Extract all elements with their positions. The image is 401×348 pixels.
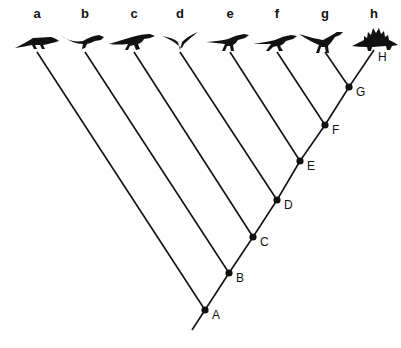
- node-label: D: [284, 198, 293, 212]
- small-dinosaur-icon: [206, 34, 249, 51]
- terminal-label: H: [378, 50, 387, 64]
- tip-label: h: [370, 6, 378, 21]
- node-label: A: [212, 308, 220, 322]
- tip-label: b: [81, 6, 89, 21]
- long-tailed-reptile-icon: [60, 35, 104, 49]
- branch-to-d: [180, 52, 277, 200]
- node-label: B: [236, 271, 244, 285]
- branch-to-f: [277, 52, 325, 125]
- theropod-icon: [253, 35, 297, 51]
- spine-segment: [229, 237, 253, 273]
- animal-silhouettes: [15, 28, 398, 53]
- node-label: G: [356, 85, 365, 99]
- archosaur-running-icon: [109, 34, 155, 50]
- tip-label: f: [275, 6, 279, 21]
- cladogram: [0, 0, 401, 348]
- node-dot: [225, 269, 232, 276]
- stegosaur-icon: [352, 28, 398, 51]
- branch-to-g: [325, 52, 349, 87]
- pterosaur-icon: [162, 32, 198, 50]
- branch-to-c: [134, 52, 253, 237]
- node-dot: [345, 83, 352, 90]
- node-dot: [273, 196, 280, 203]
- tip-label: g: [321, 6, 329, 21]
- spine-segment: [253, 200, 277, 237]
- branch-to-b: [85, 52, 229, 273]
- node-label: C: [260, 235, 269, 249]
- node-dot: [321, 121, 328, 128]
- bipedal-dinosaur-icon: [299, 32, 343, 53]
- node-dot: [296, 157, 303, 164]
- tip-label: d: [176, 6, 184, 21]
- spine-segment: [325, 87, 349, 125]
- tip-label: e: [226, 6, 233, 21]
- tip-label: a: [33, 6, 40, 21]
- branch-lines: [37, 50, 374, 330]
- spine-segment: [300, 125, 325, 161]
- node-dot: [249, 233, 256, 240]
- spine-segment: [205, 273, 229, 310]
- tip-label: c: [130, 6, 137, 21]
- crawling-reptile-icon: [15, 37, 59, 49]
- branch-to-a: [37, 52, 205, 310]
- node-dot: [201, 306, 208, 313]
- node-label: F: [332, 123, 339, 137]
- spine-segment: [277, 161, 300, 200]
- node-label: E: [307, 159, 315, 173]
- spine-segment: [349, 50, 374, 87]
